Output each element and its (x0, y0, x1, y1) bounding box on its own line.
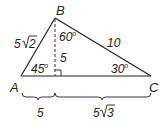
angle-a-label: 45o (31, 62, 48, 76)
side-bc-label: 10 (107, 36, 121, 50)
segment-right-coef: 5 (93, 106, 100, 120)
vertex-label-a: A (9, 80, 19, 95)
altitude-label: 5 (60, 51, 67, 65)
side-ab-label: 5 2 (14, 36, 37, 51)
right-angle-mark (55, 70, 61, 76)
brace-right (55, 93, 151, 100)
side-ab-radicand: 2 (28, 37, 36, 51)
segment-right-label: 5 3 (93, 105, 115, 120)
vertex-label-b: B (56, 3, 65, 18)
side-ab-coef: 5 (14, 37, 21, 51)
angle-c-label: 30o (111, 62, 128, 76)
triangle-diagram: B A C 5 2 10 60o 5 45o 30o 5 5 3 (0, 0, 166, 127)
degree-mark: o (124, 62, 128, 69)
vertex-label-c: C (149, 80, 159, 95)
degree-mark: o (72, 30, 76, 37)
side-bc (55, 18, 151, 76)
degree-mark: o (44, 62, 48, 69)
angle-b-label: 60o (59, 30, 76, 44)
brace-left (22, 93, 55, 100)
segment-left-label: 5 (37, 106, 44, 120)
segment-right-radicand: 3 (107, 106, 114, 120)
